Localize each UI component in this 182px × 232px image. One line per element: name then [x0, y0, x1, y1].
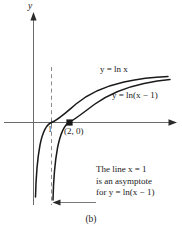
- asymptote-note: The line x = 1 is an asymptote for y = l…: [96, 164, 154, 199]
- asymptote-note-line-2: is an asymptote: [96, 176, 154, 188]
- figure-panel: y 1 y = ln x y = ln(x − 1) (2, 0) The li…: [0, 0, 182, 232]
- axis-label-y: y: [28, 1, 32, 12]
- plot-canvas: [0, 0, 182, 232]
- asymptote-note-line-1: The line x = 1: [96, 164, 154, 176]
- annotation-arrow: [53, 200, 97, 206]
- x-axis: [4, 119, 177, 125]
- x-tick-label-1: 1: [48, 124, 52, 135]
- asymptote-note-line-3: for y = ln(x − 1): [96, 187, 154, 199]
- point-marker-2-0: [66, 119, 72, 125]
- figure-caption: (b): [0, 214, 182, 224]
- curve-label-ln-x-minus-1: y = ln(x − 1): [112, 90, 158, 101]
- curve-label-ln-x: y = ln x: [100, 64, 128, 75]
- point-label-2-0: (2, 0): [64, 126, 84, 137]
